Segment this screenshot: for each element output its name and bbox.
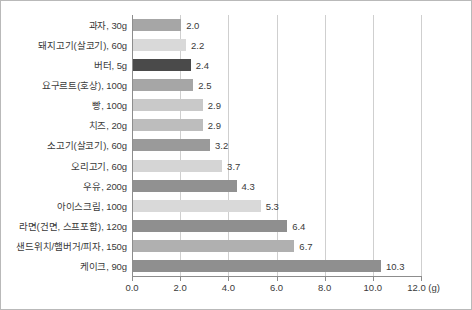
- category-label: 돼지고기(살코기), 60g: [38, 38, 127, 52]
- bar-row: 우유, 200g4.3: [1, 176, 472, 196]
- bar-row: 샌드위치/햄버거/피자, 150g6.7: [1, 236, 472, 256]
- bar: [133, 39, 186, 51]
- bar-rows: 과자, 30g2.0돼지고기(살코기), 60g2.2버터, 5g2.4요구르트…: [1, 15, 472, 276]
- bar-row: 아이스크림, 100g5.3: [1, 196, 472, 216]
- bar-value-label: 6.7: [299, 240, 312, 251]
- bar-value-label: 2.4: [196, 60, 209, 71]
- category-label: 오리고기, 60g: [71, 159, 127, 173]
- bar: [133, 240, 294, 252]
- bar-value-label: 6.4: [292, 220, 305, 231]
- x-axis-tick-label: 8.0: [318, 282, 331, 293]
- category-label: 과자, 30g: [89, 18, 127, 32]
- bar-row: 과자, 30g2.0: [1, 15, 472, 35]
- bar: [133, 260, 381, 272]
- bar-row: 버터, 5g2.4: [1, 55, 472, 75]
- bar: [133, 119, 203, 131]
- bar: [133, 160, 222, 172]
- category-label: 케이크, 90g: [80, 259, 127, 273]
- bar-value-label: 2.5: [198, 80, 211, 91]
- bar: [133, 200, 261, 212]
- bar-value-label: 2.9: [208, 100, 221, 111]
- category-label: 라면(건면, 스프포함), 120g: [19, 219, 127, 233]
- x-axis-tickmark: [421, 277, 422, 281]
- x-axis-tickmark: [373, 277, 374, 281]
- bar-row: 치즈, 20g2.9: [1, 115, 472, 135]
- bar-chart-figure: 과자, 30g2.0돼지고기(살코기), 60g2.2버터, 5g2.4요구르트…: [0, 0, 472, 310]
- bar-row: 소고기(살코기), 60g3.2: [1, 135, 472, 155]
- x-axis-tick-label: 6.0: [270, 282, 283, 293]
- bar: [133, 180, 237, 192]
- category-label: 치즈, 20g: [89, 118, 127, 132]
- x-axis-tickmark: [132, 277, 133, 281]
- bar-value-label: 2.0: [186, 20, 199, 31]
- category-label: 샌드위치/햄버거/피자, 150g: [16, 239, 127, 253]
- x-axis-tickmark: [277, 277, 278, 281]
- bar-value-label: 5.3: [266, 200, 279, 211]
- bar: [133, 79, 193, 91]
- bar-row: 돼지고기(살코기), 60g2.2: [1, 35, 472, 55]
- bar-value-label: 2.9: [208, 120, 221, 131]
- bar: [133, 59, 191, 71]
- bar-row: 라면(건면, 스프포함), 120g6.4: [1, 216, 472, 236]
- bar-value-label: 4.3: [242, 180, 255, 191]
- bar: [133, 99, 203, 111]
- x-axis-tickmark: [228, 277, 229, 281]
- x-axis-tick-label: 0.0: [125, 282, 138, 293]
- x-axis-tickmark: [325, 277, 326, 281]
- bar: [133, 19, 181, 31]
- bar-row: 오리고기, 60g3.7: [1, 156, 472, 176]
- bar-value-label: 10.3: [386, 260, 405, 271]
- category-label: 소고기(살코기), 60g: [47, 138, 127, 152]
- bar-row: 요구르트(호상), 100g2.5: [1, 75, 472, 95]
- x-axis-tick-label: 10.0: [364, 282, 383, 293]
- bar-value-label: 2.2: [191, 40, 204, 51]
- category-label: 아이스크림, 100g: [57, 199, 127, 213]
- bar-value-label: 3.7: [227, 160, 240, 171]
- bar: [133, 220, 287, 232]
- x-axis-tick-labels: 0.02.04.06.08.010.012.0 (g): [1, 282, 472, 298]
- category-label: 버터, 5g: [94, 58, 127, 72]
- bar-row: 빵, 100g2.9: [1, 95, 472, 115]
- category-label: 우유, 200g: [83, 179, 127, 193]
- category-label: 빵, 100g: [92, 98, 127, 112]
- bar: [133, 139, 210, 151]
- category-label: 요구르트(호상), 100g: [42, 78, 127, 92]
- bar-row: 케이크, 90g10.3: [1, 256, 472, 276]
- x-axis-tick-label: 4.0: [222, 282, 235, 293]
- x-axis-tick-label: 2.0: [174, 282, 187, 293]
- x-axis-tick-label: 12.0 (g): [407, 282, 440, 293]
- x-axis-tickmark: [180, 277, 181, 281]
- bar-value-label: 3.2: [215, 140, 228, 151]
